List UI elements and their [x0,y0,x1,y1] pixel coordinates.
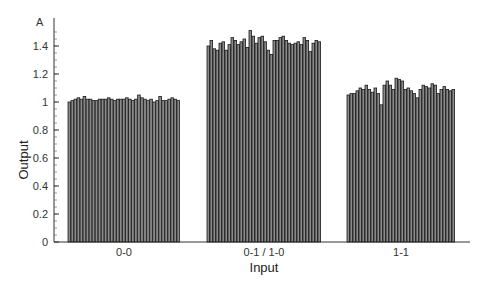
bar [249,31,252,242]
bar [452,89,455,242]
bar [174,99,177,242]
y-tick-label: 0.2 [33,208,48,220]
bar-series-group [68,31,455,242]
y-tick-label: 0.6 [33,152,48,164]
bar [368,89,371,242]
bar [285,40,288,242]
bar [171,98,174,242]
bar [428,88,431,242]
bar [246,47,249,242]
y-axis-title: Output [16,140,31,179]
bar [297,42,300,242]
x-category-label: 1-1 [393,246,409,258]
bar [276,40,279,242]
bar [252,36,255,242]
bar [347,95,350,242]
bar [306,40,309,242]
bar [138,95,141,242]
bar [107,98,110,242]
bar [213,49,216,242]
bar [159,96,162,242]
bar [359,88,362,242]
bar [413,94,416,242]
bar [365,85,368,242]
bar [101,99,104,242]
bar [377,94,380,242]
bar [419,89,422,242]
bar [425,87,428,242]
y-axis-ticks: 00.20.40.60.811.21.4 [33,32,59,248]
bar [282,36,285,242]
bar [222,42,225,242]
bar [431,84,434,242]
bar [98,99,101,242]
bar [168,99,171,242]
bar [315,40,318,242]
bar [122,99,125,242]
bar [255,43,258,242]
bar [83,96,86,242]
bar [437,94,440,242]
y-tick-label: 0.8 [33,124,48,136]
bar [113,101,116,242]
bar [258,38,261,242]
bar [234,40,237,242]
bar [71,101,74,242]
bar [434,85,437,242]
bar [279,38,282,242]
bar [141,98,144,242]
bar [449,91,452,242]
bar [410,91,413,242]
bar [147,101,150,242]
bar [389,85,392,242]
bar [150,99,153,242]
bar [312,43,315,242]
bar [309,52,312,242]
bar [243,39,246,242]
bar [300,45,303,242]
bar [261,36,264,242]
bar [303,38,306,242]
bar [318,42,321,242]
bar [225,50,228,242]
y-tick-label: 1.2 [33,68,48,80]
bar [216,50,219,242]
bar [228,45,231,242]
bar [398,80,401,242]
x-axis-category-labels: 0-00-1 / 1-01-1 [116,246,409,258]
panel-label: A [36,16,44,28]
bar [132,101,135,242]
bar [156,101,159,242]
bar [416,98,419,242]
bar [440,89,443,242]
bar [353,94,356,242]
bar [77,98,80,242]
bar [264,42,267,242]
bar [177,101,180,242]
x-category-label: 0-1 / 1-0 [244,246,285,258]
bar [89,99,92,242]
bar [135,99,138,242]
bar [116,99,119,242]
bar [219,43,222,242]
bar [207,46,210,242]
bar [404,89,407,242]
bar [380,105,383,242]
y-tick-label: 1.4 [33,40,48,52]
bar [374,88,377,242]
bar [165,101,168,242]
bar [443,87,446,242]
x-axis-title: Input [250,260,279,275]
bar [392,89,395,242]
bar [129,99,132,242]
bar [92,101,95,242]
bar [362,89,365,242]
bar [95,101,98,242]
bar [267,50,270,242]
bar [240,42,243,242]
bar [68,102,71,242]
x-category-label: 0-0 [116,246,132,258]
bar [291,45,294,242]
bar [407,88,410,242]
bar [356,91,359,242]
